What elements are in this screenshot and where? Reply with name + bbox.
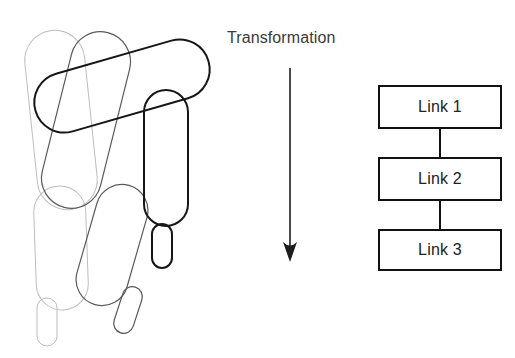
pose-medium-link-3	[111, 284, 145, 336]
figure-canvas: Transformation Link 1Link 2Link 3	[0, 0, 515, 358]
pose-dark-link-2	[144, 90, 188, 226]
link-block-3[interactable]: Link 3	[378, 229, 502, 271]
link-block-2[interactable]: Link 2	[378, 157, 502, 201]
link-block-label: Link 2	[418, 170, 462, 188]
link-block-label: Link 3	[418, 241, 462, 259]
pose-dark	[27, 32, 217, 268]
pose-light-link-2	[33, 185, 89, 311]
pose-medium	[35, 25, 154, 335]
pose-light	[22, 27, 100, 346]
connector-1-2	[439, 129, 441, 157]
connector-2-3	[439, 201, 441, 229]
pose-medium-link-1	[35, 25, 137, 214]
link-block-1[interactable]: Link 1	[378, 85, 502, 129]
pose-light-link-1	[22, 27, 100, 212]
transformation-label: Transformation	[227, 29, 335, 47]
link-block-label: Link 1	[418, 98, 462, 116]
pose-dark-link-3	[152, 224, 172, 268]
